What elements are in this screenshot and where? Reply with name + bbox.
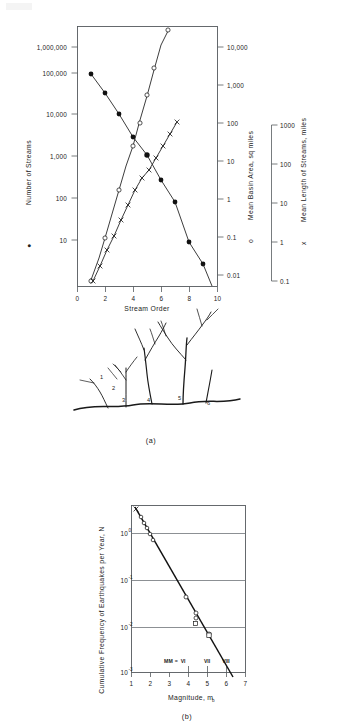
panel-a-x-axis-title: Stream Order xyxy=(124,305,170,312)
panel-a-x-tick-2: 4 xyxy=(132,295,136,302)
data-point xyxy=(145,526,149,530)
svg-text:b: b xyxy=(212,698,215,703)
stream-branch-5b xyxy=(158,322,186,360)
panel-b-x-tick-4: 5 xyxy=(206,680,210,687)
mm-value-vii: VII xyxy=(204,658,211,664)
panel-b-intensity-annotations: MM = VI VII VIII xyxy=(164,658,230,673)
panel-a-left-tick-4: 100 xyxy=(56,195,68,202)
svg-text:-1: -1 xyxy=(129,575,134,580)
data-point xyxy=(131,144,135,148)
panel-b-x-tick-5: 6 xyxy=(225,680,229,687)
stream-branch-4 xyxy=(144,348,152,404)
data-point xyxy=(133,188,138,193)
data-point xyxy=(151,538,155,542)
data-point xyxy=(117,112,122,117)
panel-a-far-axis-marker: x xyxy=(300,241,307,245)
svg-text:10: 10 xyxy=(120,530,128,537)
data-point xyxy=(207,633,211,637)
panel-a-far-tick-3: 1 xyxy=(280,239,284,246)
panel-a-right-tick-6: 0.01 xyxy=(227,272,240,279)
figure-svg: 1,000,000 100,000 10,000 1,000 100 10 Nu… xyxy=(0,0,337,727)
panel-b-x-tick-3: 4 xyxy=(187,680,191,687)
panel-a-right-tick-2: 100 xyxy=(227,120,239,127)
stream-network-diagram: 1 2 3 4 5 6 xyxy=(74,309,240,410)
panel-a-right-ticks xyxy=(218,47,224,275)
data-point xyxy=(173,200,178,205)
panel-a-left-axis-title: Number of Streams xyxy=(25,140,32,205)
panel-a-series-number-of-streams xyxy=(89,72,212,286)
panel-a-far-axis-scalebar xyxy=(272,125,278,281)
panel-b-y-axis-title: Cumulative Frequency of Earthquakes per … xyxy=(98,526,106,694)
panel-a-right-axis-marker: o xyxy=(247,239,254,243)
data-point xyxy=(138,121,142,125)
stream-twig xyxy=(108,368,117,379)
panel-a-right-tick-0: 10,000 xyxy=(227,44,248,51)
panel-b-x-axis-title: Magnitude, m b xyxy=(168,694,215,703)
data-point xyxy=(144,152,149,157)
stream-twig xyxy=(207,309,218,320)
data-point xyxy=(194,622,198,626)
data-point xyxy=(139,515,143,519)
stream-label-1: 1 xyxy=(100,374,103,380)
panel-b-y-tick-0: 10 0 xyxy=(120,528,131,537)
data-point xyxy=(168,132,173,137)
panel-b-caption: (b) xyxy=(182,712,192,721)
panel-a-x-tick-3: 6 xyxy=(160,295,164,302)
data-point xyxy=(194,616,198,620)
data-point xyxy=(161,144,166,149)
panel-a-far-axis-title: Mean Length of Streams, miles xyxy=(300,118,308,222)
stream-twig xyxy=(150,329,155,344)
data-point xyxy=(154,156,159,161)
svg-text:-3: -3 xyxy=(129,667,134,672)
panel-a-x-tick-4: 8 xyxy=(188,295,192,302)
panel-a-right-tick-3: 10 xyxy=(227,158,235,165)
data-point xyxy=(103,236,107,240)
stream-branch-5 xyxy=(183,338,187,404)
panel-a-right-tick-4: 1 xyxy=(227,196,231,203)
stream-branch-4b xyxy=(145,323,166,360)
svg-text:10: 10 xyxy=(120,669,128,676)
panel-a-x-ticks xyxy=(78,287,218,293)
svg-text:10: 10 xyxy=(120,624,128,631)
stream-branch-4c xyxy=(135,329,144,350)
panel-a-series-mean-length xyxy=(91,120,180,284)
panel-b-x-tick-0: 1 xyxy=(130,680,134,687)
data-point xyxy=(119,218,124,223)
data-point xyxy=(98,264,103,269)
panel-b-x-tick-1: 2 xyxy=(149,680,153,687)
stream-label-2: 2 xyxy=(112,385,115,391)
panel-a-right-tick-1: 1,000 xyxy=(227,82,244,89)
data-point xyxy=(184,595,188,599)
stream-label-6: 6 xyxy=(207,400,210,406)
stream-label-3: 3 xyxy=(122,397,125,403)
svg-text:-2: -2 xyxy=(129,622,134,627)
data-point xyxy=(142,521,146,525)
panel-a-far-tick-0: 1000 xyxy=(280,122,295,129)
panel-a-left-tick-3: 1,000 xyxy=(50,153,67,160)
stream-main-channel xyxy=(74,399,240,410)
panel-a-far-tick-4: 0.1 xyxy=(280,278,290,285)
stream-twig xyxy=(113,364,121,372)
data-point xyxy=(187,240,192,245)
panel-b-x-ticks xyxy=(132,673,246,678)
svg-text:0: 0 xyxy=(129,528,132,533)
panel-a-caption: (a) xyxy=(146,436,156,445)
data-point xyxy=(89,72,94,77)
data-point xyxy=(145,93,149,97)
stream-label-4: 4 xyxy=(147,397,150,403)
data-point xyxy=(117,188,121,192)
svg-text:Magnitude, m: Magnitude, m xyxy=(168,694,213,702)
panel-a-x-tick-5: 10 xyxy=(214,295,222,302)
panel-a: 1,000,000 100,000 10,000 1,000 100 10 Nu… xyxy=(25,27,308,313)
data-point xyxy=(166,28,170,32)
data-point xyxy=(140,176,145,181)
panel-b: 10 0 10 -1 10 -2 10 -3 Cumulative Freque… xyxy=(98,506,248,704)
data-point xyxy=(105,248,110,253)
data-point xyxy=(103,91,108,96)
panel-a-left-tick-2: 10,000 xyxy=(46,111,67,118)
data-point xyxy=(159,178,164,183)
panel-a-far-tick-2: 10 xyxy=(280,200,288,207)
panel-a-left-tick-0: 1,000,000 xyxy=(37,44,67,51)
panel-a-far-tick-1: 100 xyxy=(280,161,292,168)
panel-b-x-tick-2: 3 xyxy=(168,680,172,687)
